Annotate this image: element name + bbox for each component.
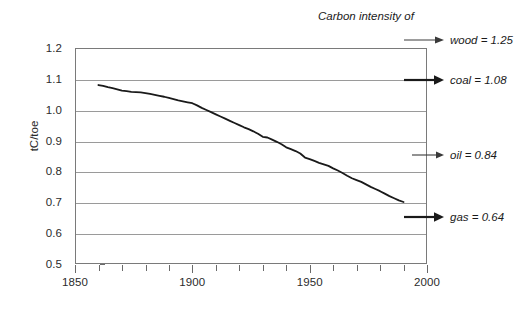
x-tickmark [404, 265, 405, 271]
gridline [76, 203, 426, 204]
y-ticklabel: 1.2 [46, 42, 62, 54]
oil-annotation-label: oil = 0.84 [450, 149, 497, 161]
x-tickmark-1850 [75, 265, 76, 273]
x-ticklabel: 1950 [297, 276, 323, 288]
y-axis-ticklabels: 1.2 1.1 1.0 0.9 0.8 0.7 0.6 0.5 [30, 48, 70, 264]
gridline [76, 111, 426, 112]
x-tickmark [380, 265, 381, 271]
x-ticklabel: 2000 [414, 276, 440, 288]
plot-area [75, 48, 427, 264]
x-ticklabel: 1850 [62, 276, 88, 288]
y-ticklabel: 0.5 [46, 258, 62, 270]
x-tickmark [239, 265, 240, 271]
gas-annotation-arrow [404, 210, 444, 224]
x-tickmark [263, 265, 264, 271]
gridline [76, 172, 426, 173]
x-tickmark-1900 [192, 265, 193, 273]
x-tickmark [122, 265, 123, 271]
y-ticklabel: 1.0 [46, 104, 62, 116]
y-ticklabel: 0.7 [46, 196, 62, 208]
chart-title: Carbon intensity of [318, 10, 414, 22]
coal-annotation-arrow [404, 73, 444, 87]
y-ticklabel: 1.1 [46, 73, 62, 85]
gridline [76, 234, 426, 235]
gridline [76, 142, 426, 143]
x-tickmark [216, 265, 217, 271]
gas-annotation-label: gas = 0.64 [450, 211, 504, 223]
wood-annotation-arrow [404, 34, 444, 46]
x-tickmark [169, 265, 170, 271]
oil-annotation-arrow [412, 149, 444, 161]
x-tickmark-2000 [427, 265, 428, 273]
x-tickmark [286, 265, 287, 271]
coal-annotation-label: coal = 1.08 [450, 74, 507, 86]
x-tickmark [333, 265, 334, 271]
x-tickmark [357, 265, 358, 271]
x-tickmark [146, 265, 147, 271]
x-ticklabel: 1900 [179, 276, 205, 288]
y-tickmark [100, 264, 105, 265]
y-ticklabel: 0.9 [46, 135, 62, 147]
y-ticklabel: 0.8 [46, 165, 62, 177]
chart-figure: Carbon intensity of tC/toe 1.2 1.1 1.0 0… [0, 0, 516, 310]
x-tickmark [99, 265, 100, 271]
x-tickmark-1950 [310, 265, 311, 273]
y-ticklabel: 0.6 [46, 227, 62, 239]
gridline [76, 80, 426, 81]
wood-annotation-label: wood = 1.25 [450, 34, 513, 46]
